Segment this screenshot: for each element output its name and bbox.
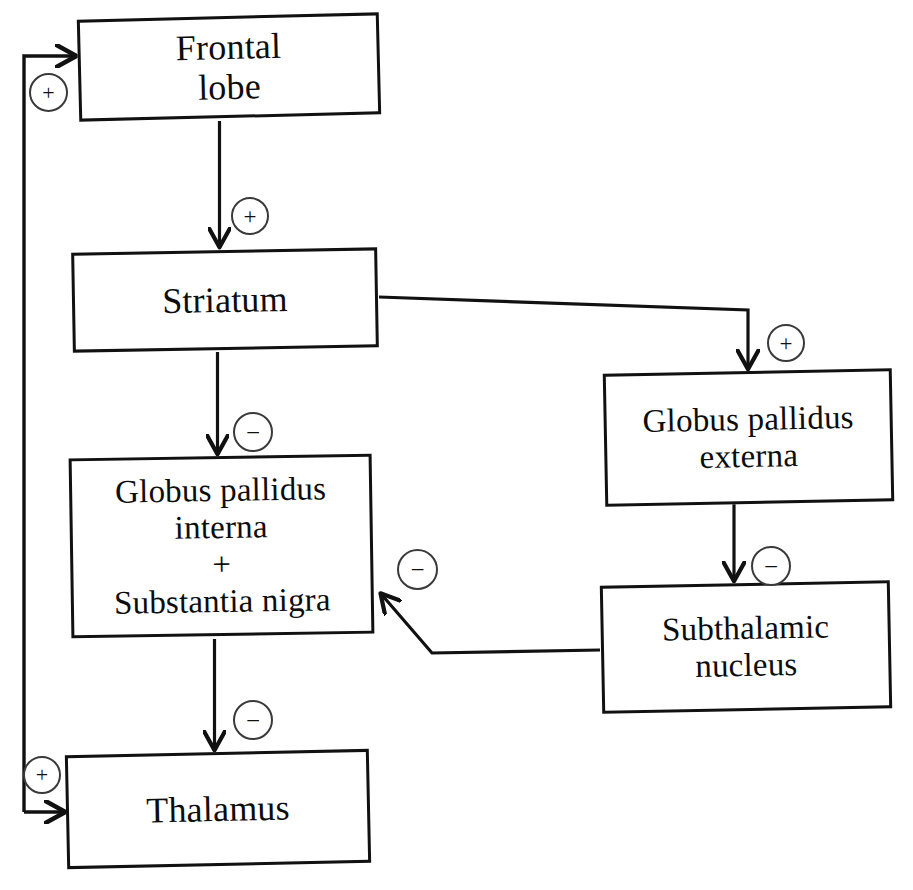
sign-symbol: − bbox=[246, 420, 260, 445]
node-subthalamic-nucleus-label: Subthalamic nucleus bbox=[656, 608, 837, 685]
node-frontal-lobe[interactable]: Frontal lobe bbox=[77, 12, 381, 121]
sign-symbol: − bbox=[246, 708, 260, 733]
sign-badge-inhibitory-stn-to-gpi: − bbox=[397, 549, 438, 590]
edge-thalamus-to-frontal-lobe bbox=[24, 56, 74, 812]
node-striatum-label: Striatum bbox=[156, 279, 294, 322]
node-globus-pallidus-interna[interactable]: Globus pallidus interna + Substantia nig… bbox=[69, 454, 375, 639]
node-subthalamic-nucleus[interactable]: Subthalamic nucleus bbox=[600, 580, 892, 714]
sign-badge-excitatory-feedback-thalamus: + bbox=[23, 756, 61, 794]
sign-symbol: − bbox=[410, 557, 424, 582]
sign-symbol: − bbox=[764, 554, 778, 579]
node-striatum[interactable]: Striatum bbox=[71, 247, 379, 352]
edge-striatum-to-globus-pallidus-externa bbox=[379, 297, 748, 367]
sign-badge-inhibitory-gpi-to-thalamus: − bbox=[233, 700, 273, 740]
sign-symbol: + bbox=[780, 332, 793, 355]
node-globus-pallidus-externa-label: Globus pallidus externa bbox=[636, 398, 860, 476]
node-thalamus[interactable]: Thalamus bbox=[65, 749, 371, 869]
node-thalamus-label: Thalamus bbox=[140, 787, 296, 831]
sign-symbol: + bbox=[36, 764, 48, 786]
sign-badge-excitatory-thalamus-to-frontal: + bbox=[29, 73, 68, 112]
node-globus-pallidus-interna-label: Globus pallidus interna + Substantia nig… bbox=[106, 470, 337, 621]
edge-subthalamic-nucleus-to-globus-pallidus-interna bbox=[382, 595, 600, 653]
sign-badge-excitatory-frontal-to-striatum: + bbox=[231, 197, 269, 235]
sign-symbol: + bbox=[42, 82, 54, 104]
sign-badge-inhibitory-striatum-to-gpi: − bbox=[233, 412, 273, 452]
sign-badge-inhibitory-gpe-to-stn: − bbox=[751, 546, 791, 586]
sign-badge-excitatory-striatum-to-gpe: + bbox=[767, 324, 805, 362]
sign-symbol: + bbox=[244, 205, 257, 228]
diagram-canvas: Frontal lobe Striatum Globus pallidus in… bbox=[0, 0, 913, 890]
node-frontal-lobe-label: Frontal lobe bbox=[169, 25, 288, 108]
node-globus-pallidus-externa[interactable]: Globus pallidus externa bbox=[603, 368, 895, 507]
